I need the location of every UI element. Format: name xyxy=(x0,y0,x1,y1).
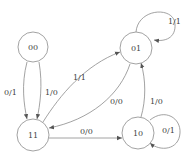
state-10: 10 xyxy=(122,117,154,149)
label-01-11: 0/0 xyxy=(110,97,123,106)
label-00-11-a: 0/1 xyxy=(4,88,17,97)
state-00-label: 00 xyxy=(28,43,38,52)
edge-11-01 xyxy=(43,52,120,122)
label-01-loop: 1/1 xyxy=(168,17,181,26)
edge-01-11 xyxy=(49,64,130,128)
label-11-10: 0/0 xyxy=(80,127,93,136)
label-10-loop: 0/1 xyxy=(162,126,175,135)
state-10-label: 10 xyxy=(133,129,143,138)
state-00: 00 xyxy=(18,32,48,62)
label-10-01: 1/0 xyxy=(150,97,163,106)
state-diagram: 0/1 1/0 1/1 0/0 0/0 1/0 1/1 0/1 00 01 11… xyxy=(0,0,181,159)
edge-00-11-b xyxy=(37,62,41,119)
state-01: 01 xyxy=(120,32,152,64)
state-01-label: 01 xyxy=(131,44,141,53)
state-11-label: 11 xyxy=(28,131,38,140)
edge-00-11-a xyxy=(24,62,27,119)
label-00-11-b: 1/0 xyxy=(45,88,58,97)
label-11-01: 1/1 xyxy=(73,73,86,82)
state-11: 11 xyxy=(17,119,49,151)
edge-10-01 xyxy=(141,63,145,117)
